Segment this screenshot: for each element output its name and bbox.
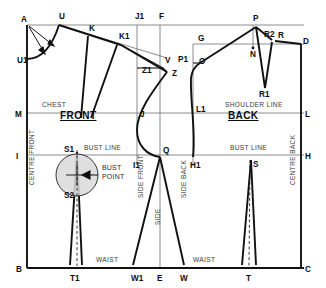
section-label-front: FRONT <box>60 110 96 121</box>
label-front-waist: WAIST <box>96 256 118 263</box>
label-point-W1: W1 <box>131 274 144 283</box>
label-point-J1: J1 <box>135 12 145 21</box>
label-point-W: W <box>180 274 188 283</box>
label-point-C: C <box>305 265 311 274</box>
pattern-svg: FRONT BACK CHEST SHOULDER LINE BUST LINE… <box>0 0 326 288</box>
label-point-J: J <box>140 110 145 119</box>
label-point-T1: T1 <box>70 274 80 283</box>
label-point-S2: S2 <box>64 191 74 200</box>
label-point-R2: R2 <box>264 30 275 39</box>
label-point-V: V <box>165 56 171 65</box>
label-point-R: R <box>278 31 284 40</box>
label-back-bust-line: BUST LINE <box>230 144 267 151</box>
label-back-waist: WAIST <box>193 256 215 263</box>
label-point-N: N <box>250 50 256 59</box>
label-shoulder-line: SHOULDER LINE <box>225 101 283 108</box>
label-point-F: F <box>159 12 164 21</box>
marker-N <box>252 47 255 50</box>
label-point-E: E <box>157 274 163 283</box>
label-point-B: B <box>16 265 22 274</box>
label-point-R1: R1 <box>259 90 270 99</box>
label-centre-back: CENTRE BACK <box>289 134 296 185</box>
label-point-M: M <box>15 110 22 119</box>
label-point-L1: L1 <box>196 105 206 114</box>
label-point-U: U <box>59 12 65 21</box>
section-label-back: BACK <box>228 110 259 121</box>
label-point-Z: Z <box>172 69 177 78</box>
label-point-Q: Q <box>163 146 170 155</box>
label-side-back: SIDE BACK <box>180 160 187 198</box>
label-side: SIDE <box>154 208 161 225</box>
label-point-Z1: Z1 <box>142 66 152 75</box>
label-chest: CHEST <box>42 101 66 108</box>
point-markers <box>252 47 255 50</box>
label-point-H1: H1 <box>190 161 201 170</box>
label-point-U1: U1 <box>17 56 28 65</box>
label-point-P1: P1 <box>178 55 188 64</box>
label-bust-point-1: BUST <box>102 164 122 171</box>
label-point-S1: S1 <box>64 145 74 154</box>
label-point-P: P <box>253 14 259 23</box>
label-point-K: K <box>89 24 95 33</box>
label-point-L: L <box>305 110 310 119</box>
label-point-T: T <box>246 274 251 283</box>
label-point-S: S <box>253 160 259 169</box>
label-point-O: O <box>199 57 206 66</box>
label-point-G: G <box>198 34 204 43</box>
label-front-bust-line: BUST LINE <box>84 144 121 151</box>
label-centre-front: CENTRE FRONT <box>28 130 35 185</box>
label-point-A: A <box>21 15 27 24</box>
pattern-diagram: FRONT BACK CHEST SHOULDER LINE BUST LINE… <box>0 0 326 288</box>
label-point-I: I <box>16 152 18 161</box>
label-point-D: D <box>303 37 309 46</box>
label-point-K1: K1 <box>119 32 130 41</box>
label-point-H: H <box>305 152 311 161</box>
label-bust-point-2: POINT <box>102 173 125 180</box>
label-point-I1: I1 <box>133 161 140 170</box>
